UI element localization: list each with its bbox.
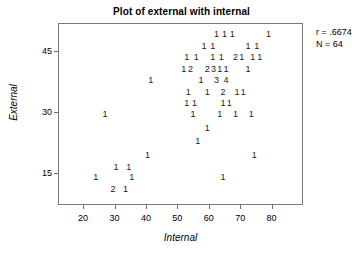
data-point: 4: [224, 76, 229, 85]
data-point: 1: [198, 76, 203, 85]
x-axis-title: Internal: [58, 232, 303, 243]
x-tick-mark: [209, 205, 210, 209]
y-tick-label: 45: [26, 47, 52, 56]
y-axis-title: External: [8, 73, 19, 133]
data-point: 1: [205, 87, 210, 96]
data-point: 1: [217, 65, 222, 74]
data-point: 1: [93, 172, 98, 181]
chart-title: Plot of external with internal: [0, 6, 363, 17]
data-point: 1: [217, 110, 222, 119]
x-tick-mark: [272, 205, 273, 209]
data-point: 1: [246, 41, 251, 50]
y-tick-label: 30: [26, 107, 52, 116]
plot-area: 1111111111112111122311111341121111111111…: [58, 23, 303, 205]
x-tick-mark: [240, 205, 241, 209]
y-tick-mark: [54, 51, 58, 52]
data-point: 1: [219, 53, 224, 62]
y-tick-label: 15: [26, 168, 52, 177]
data-point: 1: [148, 76, 153, 85]
data-point: 1: [184, 99, 189, 108]
x-tick-mark: [83, 205, 84, 209]
data-point: 1: [210, 41, 215, 50]
data-point: 1: [235, 87, 240, 96]
data-point: 1: [224, 65, 229, 74]
data-point: 1: [222, 30, 227, 39]
data-point: 1: [250, 53, 255, 62]
data-point: 1: [194, 53, 199, 62]
data-point: 1: [191, 110, 196, 119]
data-point: 1: [129, 172, 134, 181]
data-point: 2: [205, 65, 210, 74]
data-point: 1: [145, 150, 150, 159]
data-point: 1: [233, 110, 238, 119]
scatter-plot-figure: Plot of external with internal r = .6674…: [0, 0, 363, 262]
data-point: 1: [192, 99, 197, 108]
data-point: 1: [266, 30, 271, 39]
x-tick-label: 50: [164, 214, 190, 223]
data-point: 1: [227, 99, 232, 108]
x-tick-label: 30: [102, 214, 128, 223]
statistics-annotation: r = .6674 N = 64: [316, 26, 352, 50]
data-point: 1: [126, 162, 131, 171]
data-point: 1: [186, 87, 191, 96]
y-tick-mark: [54, 173, 58, 174]
data-point: 2: [233, 53, 238, 62]
data-point: 1: [123, 184, 128, 193]
data-point: 1: [230, 30, 235, 39]
y-tick-mark: [54, 112, 58, 113]
data-point: 1: [114, 162, 119, 171]
data-point: 1: [239, 53, 244, 62]
correlation-label: r = .6674: [316, 26, 352, 38]
data-point: 1: [254, 41, 259, 50]
x-tick-label: 60: [196, 214, 222, 223]
x-tick-label: 70: [227, 214, 253, 223]
x-tick-label: 20: [70, 214, 96, 223]
x-tick-label: 40: [133, 214, 159, 223]
x-tick-mark: [177, 205, 178, 209]
data-point: 1: [210, 53, 215, 62]
data-point: 1: [184, 53, 189, 62]
x-tick-label: 80: [259, 214, 285, 223]
data-point: 1: [246, 65, 251, 74]
x-tick-mark: [146, 205, 147, 209]
data-point: 1: [103, 110, 108, 119]
x-tick-mark: [115, 205, 116, 209]
data-point: 1: [252, 150, 257, 159]
data-point: 1: [257, 53, 262, 62]
data-point: 3: [211, 65, 216, 74]
data-point: 1: [195, 137, 200, 146]
data-point: 2: [188, 65, 193, 74]
data-point: 1: [202, 41, 207, 50]
data-point: 1: [220, 99, 225, 108]
data-point: 3: [214, 76, 219, 85]
data-point: 2: [110, 184, 115, 193]
sample-size-label: N = 64: [316, 38, 352, 50]
data-point: 1: [181, 65, 186, 74]
data-point: 1: [214, 30, 219, 39]
data-point: 1: [220, 172, 225, 181]
data-point: 1: [249, 110, 254, 119]
data-point: 1: [205, 124, 210, 133]
data-point: 1: [241, 87, 246, 96]
data-point: 2: [220, 87, 225, 96]
